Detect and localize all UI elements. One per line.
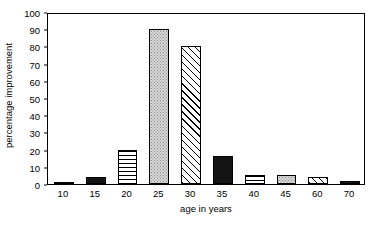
y-axis-tick-label: 40 bbox=[29, 111, 40, 122]
bar bbox=[277, 175, 297, 184]
bar bbox=[181, 46, 201, 184]
x-axis-tick-label: 20 bbox=[121, 188, 132, 199]
bar bbox=[149, 29, 169, 184]
y-axis-tick-label: 30 bbox=[29, 128, 40, 139]
plot-area bbox=[47, 13, 365, 185]
bar bbox=[118, 150, 138, 184]
bar-chart: percentage improvement 01020304050607080… bbox=[0, 0, 379, 225]
bar bbox=[54, 182, 74, 184]
x-axis-tick-label: 15 bbox=[89, 188, 100, 199]
y-axis-tick-label: 50 bbox=[29, 94, 40, 105]
y-axis-tick-label: 100 bbox=[24, 8, 40, 19]
y-axis-tick-label: 90 bbox=[29, 25, 40, 36]
x-axis-tick-label: 30 bbox=[185, 188, 196, 199]
x-axis-tick-label: 70 bbox=[344, 188, 355, 199]
y-axis-tick-label: 70 bbox=[29, 59, 40, 70]
y-axis-tick-label: 20 bbox=[29, 145, 40, 156]
x-axis-tick-label: 35 bbox=[217, 188, 228, 199]
y-axis-tick-label: 0 bbox=[35, 180, 40, 191]
bar bbox=[213, 156, 233, 184]
x-axis-tick-labels: 10152025303540456070 bbox=[47, 186, 365, 202]
x-axis-tick-label: 45 bbox=[280, 188, 291, 199]
x-axis-tick-label: 60 bbox=[312, 188, 323, 199]
x-axis-tick-label: 25 bbox=[153, 188, 164, 199]
y-axis-tick-label: 80 bbox=[29, 42, 40, 53]
bars-container bbox=[48, 14, 364, 184]
bar bbox=[245, 175, 265, 184]
bar bbox=[86, 177, 106, 184]
y-axis-tick-labels: 0102030405060708090100 bbox=[18, 0, 44, 190]
y-axis-tick-label: 60 bbox=[29, 76, 40, 87]
bar bbox=[308, 177, 328, 184]
y-axis-title-text: percentage improvement bbox=[4, 42, 15, 147]
y-axis-tick-label: 10 bbox=[29, 162, 40, 173]
bar bbox=[340, 181, 360, 184]
y-axis-title: percentage improvement bbox=[0, 0, 18, 190]
x-axis-title: age in years bbox=[47, 203, 365, 214]
x-axis-tick-label: 10 bbox=[58, 188, 69, 199]
x-axis-tick-label: 40 bbox=[248, 188, 259, 199]
